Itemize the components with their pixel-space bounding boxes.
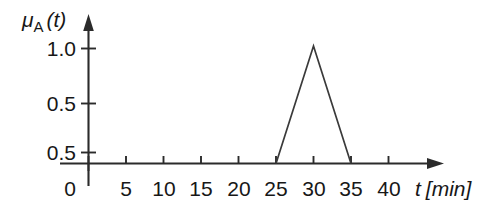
x-tick-label-20: 20 <box>227 177 250 200</box>
x-tick-label-35: 35 <box>339 177 362 200</box>
x-tick-label-5: 5 <box>120 177 132 200</box>
x-axis-title: t[min] <box>415 177 473 200</box>
y-tick-label-middle: 0.5 <box>47 92 76 115</box>
chart-canvas: μA(t) 1.0 0.5 0.5 0 5 10 15 <box>0 0 486 210</box>
x-axis-symbol: t <box>415 177 422 200</box>
y-axis-subscript: A <box>34 18 44 35</box>
y-axis-title: μA(t) <box>21 8 66 35</box>
x-axis-unit: [min] <box>425 177 473 200</box>
y-tick-label-bottom: 0.5 <box>47 141 76 164</box>
y-axis-mu-symbol: μ <box>21 8 34 31</box>
x-tick-label-25: 25 <box>264 177 287 200</box>
x-tick-label-40: 40 <box>377 177 400 200</box>
membership-curve <box>276 46 351 164</box>
x-tick-label-15: 15 <box>189 177 212 200</box>
x-tick-label-10: 10 <box>152 177 175 200</box>
x-axis-arrow-icon <box>427 158 444 169</box>
y-tick-label-top: 1.0 <box>47 37 76 60</box>
x-tick-label-30: 30 <box>302 177 325 200</box>
y-axis-arrow-icon <box>83 14 94 31</box>
membership-function-figure: μA(t) 1.0 0.5 0.5 0 5 10 15 <box>0 0 486 210</box>
y-axis-argument: (t) <box>47 8 67 31</box>
x-tick-label-0: 0 <box>64 177 76 200</box>
